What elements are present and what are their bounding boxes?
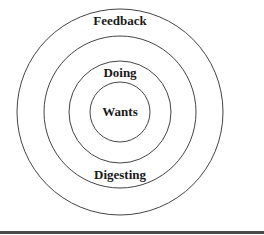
bottom-divider — [0, 231, 264, 234]
concentric-circles-diagram: Feedback Doing Wants Digesting — [0, 0, 264, 235]
label-digesting: Digesting — [94, 167, 147, 182]
label-doing: Doing — [103, 65, 137, 80]
label-feedback: Feedback — [93, 13, 147, 28]
label-wants: Wants — [102, 104, 137, 119]
